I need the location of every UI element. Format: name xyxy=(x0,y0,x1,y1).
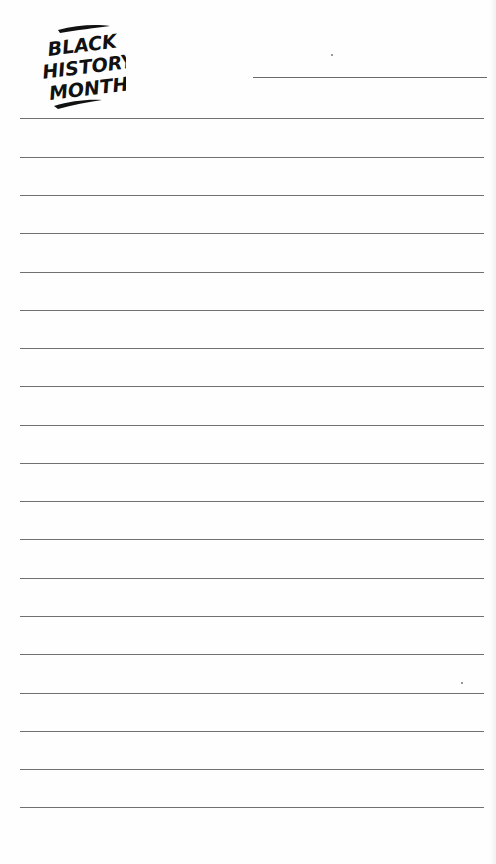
ruled-line-16[interactable] xyxy=(20,693,484,694)
ruled-line-12[interactable] xyxy=(20,539,484,540)
black-history-month-logo: BLACK HISTORY MONTH xyxy=(36,22,126,110)
ruled-line-18[interactable] xyxy=(20,769,484,770)
ruled-line-11[interactable] xyxy=(20,501,484,502)
ruled-line-9[interactable] xyxy=(20,425,484,426)
ruled-line-15[interactable] xyxy=(20,654,484,655)
speck xyxy=(461,682,463,684)
logo-brush-icon: BLACK HISTORY MONTH xyxy=(36,22,126,110)
ruled-line-13[interactable] xyxy=(20,578,484,579)
ruled-line-5[interactable] xyxy=(20,272,484,273)
ruled-line-4[interactable] xyxy=(20,233,484,234)
speck xyxy=(331,54,333,56)
ruled-line-19[interactable] xyxy=(20,807,484,808)
ruled-line-3[interactable] xyxy=(20,195,484,196)
page-edge-shadow xyxy=(490,0,496,864)
ruled-line-1[interactable] xyxy=(20,118,484,119)
header-write-line[interactable] xyxy=(253,77,487,78)
ruled-line-14[interactable] xyxy=(20,616,484,617)
notepad-page: BLACK HISTORY MONTH xyxy=(0,0,496,864)
ruled-line-2[interactable] xyxy=(20,157,484,158)
ruled-line-10[interactable] xyxy=(20,463,484,464)
ruled-line-7[interactable] xyxy=(20,348,484,349)
ruled-line-6[interactable] xyxy=(20,310,484,311)
ruled-line-17[interactable] xyxy=(20,731,484,732)
ruled-line-8[interactable] xyxy=(20,386,484,387)
